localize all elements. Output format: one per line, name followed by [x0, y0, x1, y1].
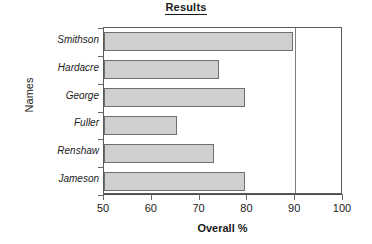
x-tick-label-60: 60 [131, 202, 171, 214]
category-label-fuller: Fuller [3, 117, 99, 128]
bar-smithson [104, 32, 293, 51]
plot-area [103, 27, 342, 194]
x-tick-label-70: 70 [179, 202, 219, 214]
category-label-renshaw: Renshaw [3, 145, 99, 156]
category-axis-labels: SmithsonHardacreGeorgeFullerRenshawJames… [0, 27, 99, 194]
x-tick-label-100: 100 [322, 202, 362, 214]
chart-title-text: Results [165, 1, 206, 15]
bar-george [104, 88, 245, 107]
x-axis-title: Overall % [103, 222, 342, 234]
bar-renshaw [104, 144, 214, 163]
x-tick-label-80: 80 [226, 202, 266, 214]
x-tick-100 [342, 194, 343, 200]
y-tick [98, 84, 104, 85]
y-tick [98, 28, 104, 29]
bar-chart: Results Names SmithsonHardacreGeorgeFull… [0, 0, 372, 244]
category-label-hardacre: Hardacre [3, 62, 99, 73]
y-tick [98, 167, 104, 168]
category-label-jameson: Jameson [3, 173, 99, 184]
x-tick-90 [294, 194, 295, 200]
bar-fuller [104, 116, 177, 135]
x-tick-label-90: 90 [274, 202, 314, 214]
y-tick [98, 139, 104, 140]
category-label-george: George [3, 90, 99, 101]
gridline-90 [295, 28, 296, 193]
y-tick [98, 56, 104, 57]
x-axis-line [103, 194, 342, 195]
x-tick-70 [199, 194, 200, 200]
bar-hardacre [104, 60, 219, 79]
x-tick-60 [151, 194, 152, 200]
x-tick-50 [103, 194, 104, 200]
x-tick-label-50: 50 [83, 202, 123, 214]
chart-title: Results [0, 1, 372, 13]
y-tick [98, 112, 104, 113]
category-label-smithson: Smithson [3, 34, 99, 45]
x-tick-80 [246, 194, 247, 200]
bar-jameson [104, 172, 245, 191]
